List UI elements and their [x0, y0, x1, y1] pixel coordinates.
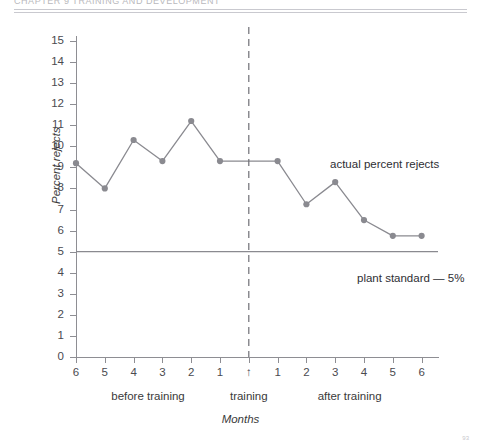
x-tick-label: 1 — [208, 367, 232, 379]
data-point — [73, 160, 79, 166]
x-tick-label: 4 — [122, 367, 146, 379]
data-point — [332, 179, 338, 185]
data-point — [419, 233, 425, 239]
chart-canvas — [76, 36, 438, 358]
y-tick-label: 13 — [34, 77, 64, 89]
plot-area: Percent rejects — [76, 36, 438, 357]
data-point — [159, 158, 165, 164]
data-point — [188, 118, 194, 124]
data-point — [131, 137, 137, 143]
x-tick-label: 1 — [266, 367, 290, 379]
data-point — [217, 158, 223, 164]
y-tick-label: 2 — [34, 309, 64, 321]
series-annotation: actual percent rejects — [330, 158, 439, 170]
x-tick-label: 2 — [179, 367, 203, 379]
y-tick-label: 0 — [34, 351, 64, 363]
x-region-label: after training — [290, 390, 410, 402]
x-tick-label: 3 — [150, 367, 174, 379]
x-tick-label: 2 — [294, 367, 318, 379]
y-tick-label: 5 — [34, 246, 64, 258]
header-rule-bottom — [14, 12, 467, 13]
reference-line-annotation: plant standard — 5% — [357, 272, 464, 284]
x-tick-label: 3 — [323, 367, 347, 379]
x-axis-title: Months — [0, 413, 481, 425]
x-tick-label: 6 — [64, 367, 88, 379]
page-number: 93 — [462, 435, 469, 441]
y-tick-label: 15 — [34, 35, 64, 47]
running-header: CHAPTER 9 TRAINING AND DEVELOPMENT — [14, 0, 220, 6]
y-axis-title: Percent rejects — [50, 127, 62, 204]
y-tick-label: 3 — [34, 288, 64, 300]
chart-page: CHAPTER 9 TRAINING AND DEVELOPMENT 01234… — [0, 0, 481, 447]
header-rule-top — [14, 9, 467, 10]
y-tick-label: 6 — [34, 225, 64, 237]
y-tick-label: 12 — [34, 98, 64, 110]
x-tick-label: 4 — [352, 367, 376, 379]
y-tick-label: 1 — [34, 330, 64, 342]
x-tick-label: 5 — [93, 367, 117, 379]
y-tick-label: 4 — [34, 267, 64, 279]
y-tick-label: 14 — [34, 56, 64, 68]
data-point — [275, 158, 281, 164]
x-tick-label: 5 — [381, 367, 405, 379]
data-point — [102, 185, 108, 191]
data-point — [390, 233, 396, 239]
data-point — [303, 201, 309, 207]
x-tick-label: 6 — [410, 367, 434, 379]
y-tick-label: 7 — [34, 204, 64, 216]
x-tick-label: ↑ — [237, 367, 261, 379]
data-point — [361, 217, 367, 223]
